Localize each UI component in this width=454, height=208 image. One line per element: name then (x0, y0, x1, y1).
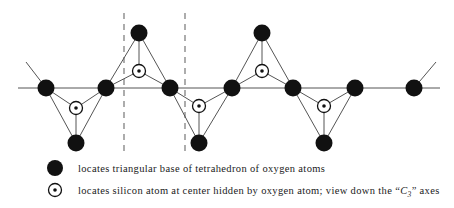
silicon-center-5 (318, 100, 331, 113)
silicon-center-4 (256, 65, 269, 78)
legend: locates triangular base of tetrahedron o… (47, 160, 440, 199)
bridging-oxygen-1 (38, 80, 55, 97)
apex-oxygen-down-2 (191, 135, 208, 152)
tetra-edge (199, 88, 232, 143)
tetra-edge (293, 88, 324, 143)
apex-oxygen-up-1 (131, 25, 148, 42)
apex-oxygen-down-3 (316, 135, 333, 152)
silicon-center-1 (70, 102, 83, 115)
apex-oxygen-down-1 (68, 135, 85, 152)
tetra-edge (46, 88, 76, 143)
apex-oxygen-up-2 (254, 25, 271, 42)
legend-row-2-text: locates silicon atom at center hidden by… (78, 185, 440, 199)
silicon-center-2 (133, 65, 146, 78)
tetra-edge (324, 88, 355, 143)
legend-row-1-text: locates triangular base of tetrahedron o… (78, 163, 325, 174)
legend-dotted-circle-icon (49, 184, 62, 197)
silicon-center-3 (193, 100, 206, 113)
bridging-oxygen-3 (162, 80, 179, 97)
bridging-oxygen-7 (406, 80, 423, 97)
legend-row-2-text-after: ” axes (412, 185, 440, 196)
legend-filled-circle-icon (47, 160, 63, 176)
figure-container: locates triangular base of tetrahedron o… (0, 0, 454, 208)
bridging-oxygen-5 (285, 80, 302, 97)
silicate-chain-diagram: locates triangular base of tetrahedron o… (0, 0, 454, 208)
bridging-oxygen-2 (98, 80, 115, 97)
bridging-oxygen-6 (347, 80, 364, 97)
legend-row-2-text-before: locates silicon atom at center hidden by… (78, 185, 400, 196)
tetra-edge (76, 88, 106, 143)
bridging-oxygen-4 (224, 80, 241, 97)
